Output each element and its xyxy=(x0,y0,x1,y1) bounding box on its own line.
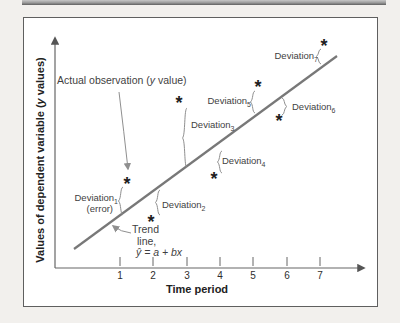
data-point-1: * xyxy=(123,174,130,194)
y-axis-title-post: values) xyxy=(34,57,46,98)
deviation-5-label: Deviation5 xyxy=(187,95,251,106)
deviation-3-label: Deviation3 xyxy=(191,119,235,130)
x-tick-7: 7 xyxy=(308,270,332,281)
y-axis-title-var: y xyxy=(34,98,46,104)
x-tick-2: 2 xyxy=(141,270,165,281)
deviation-2-brace xyxy=(156,190,161,215)
deviation-7-label: Deviation7 xyxy=(254,50,318,61)
x-tick-4: 4 xyxy=(208,270,232,281)
actual-observation-label: Actual observation (y value) xyxy=(57,75,187,86)
deviation-6-label: Deviation6 xyxy=(292,101,336,112)
deviation-1-note: (error) xyxy=(54,203,118,214)
x-tick-5: 5 xyxy=(241,270,265,281)
deviation-4-label: Deviation4 xyxy=(222,155,266,166)
data-point-6: * xyxy=(275,111,282,131)
plot-canvas: * * * * * * * xyxy=(24,18,377,306)
deviation-1-text: Deviation1 xyxy=(54,192,118,203)
page-top-rule xyxy=(22,0,386,5)
trend-label-line1: Trend xyxy=(132,224,159,235)
x-axis-title: Time period xyxy=(97,283,297,295)
deviation-3-brace xyxy=(183,108,188,168)
x-tick-1: 1 xyxy=(108,270,132,281)
deviation-1-brace xyxy=(119,187,124,215)
x-axis-ticks xyxy=(120,257,320,266)
figure-frame: * * * * * * * Values of dependent variab… xyxy=(23,17,378,307)
deviation-6-brace xyxy=(282,98,287,115)
data-point-7: * xyxy=(320,36,327,56)
y-axis-title: Values of dependent variable (y values) xyxy=(34,57,46,262)
x-tick-6: 6 xyxy=(275,270,299,281)
data-point-5: * xyxy=(254,77,261,97)
data-point-3: * xyxy=(175,93,182,113)
actual-observation-post: value) xyxy=(155,74,187,86)
x-tick-3: 3 xyxy=(175,270,199,281)
trend-equation: ŷ = a + bx xyxy=(136,247,182,258)
actual-observation-arrow xyxy=(119,92,128,169)
deviation-2-label: Deviation2 xyxy=(162,199,206,210)
trend-line-arrow xyxy=(113,226,131,233)
actual-observation-pre: Actual observation ( xyxy=(57,74,150,86)
data-point-4: * xyxy=(210,169,217,189)
y-axis-title-pre: Values of dependent variable ( xyxy=(34,104,46,262)
deviation-1-label: Deviation1 (error) xyxy=(54,192,118,214)
